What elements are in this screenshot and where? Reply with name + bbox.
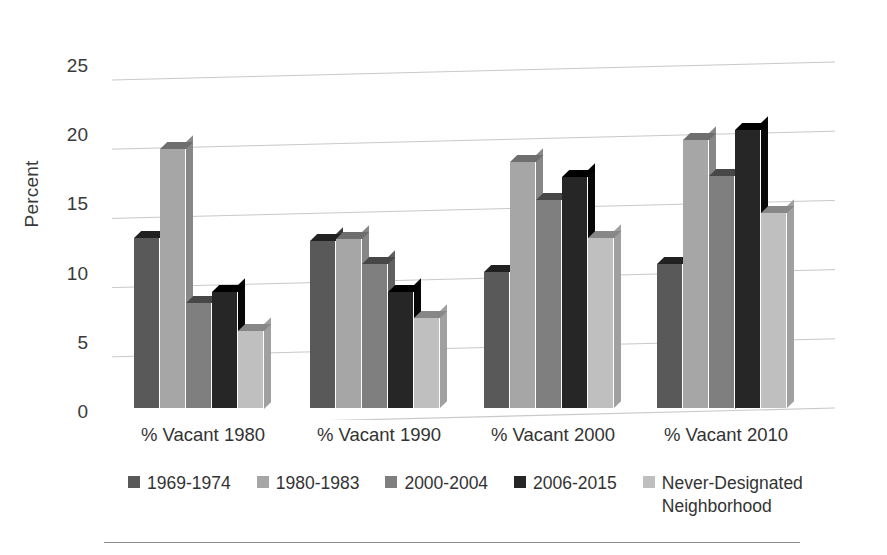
legend-label: 1980-1983 bbox=[276, 472, 360, 495]
bar bbox=[186, 303, 212, 408]
bar-group bbox=[310, 20, 460, 420]
chart-legend: 1969-19741980-19832000-20042006-2015Neve… bbox=[128, 472, 868, 518]
legend-swatch-icon bbox=[257, 476, 269, 488]
legend-swatch-icon bbox=[643, 476, 655, 488]
bar-front-face bbox=[562, 177, 588, 408]
bar-front-face bbox=[414, 318, 440, 408]
bar-side-face bbox=[440, 304, 447, 408]
bar-front-face bbox=[212, 292, 238, 408]
bar-front-face bbox=[761, 213, 787, 408]
legend-item[interactable]: 2006-2015 bbox=[514, 472, 617, 495]
bar-side-face bbox=[787, 199, 794, 408]
legend-item[interactable]: Never-Designated Neighborhood bbox=[643, 472, 803, 518]
y-axis-tick-5: 5 bbox=[34, 332, 88, 354]
bar bbox=[657, 264, 683, 408]
bar-front-face bbox=[310, 241, 336, 408]
y-axis-tick-labels: 2520151050 bbox=[32, 0, 88, 555]
y-axis-tick-20: 20 bbox=[34, 124, 88, 146]
legend-label: 2006-2015 bbox=[533, 472, 617, 495]
legend-label: 1969-1974 bbox=[147, 472, 231, 495]
bar-front-face bbox=[134, 238, 160, 408]
bar bbox=[761, 213, 787, 408]
bar-front-face bbox=[362, 264, 388, 408]
bar bbox=[414, 318, 440, 408]
bar bbox=[484, 272, 510, 408]
bar bbox=[683, 140, 709, 408]
legend-swatch-icon bbox=[385, 476, 397, 488]
bar bbox=[735, 130, 761, 408]
bar-front-face bbox=[709, 176, 735, 409]
bar-group bbox=[657, 20, 807, 420]
bar-front-face bbox=[683, 140, 709, 408]
x-axis-label-3: % Vacant 2000 bbox=[491, 424, 615, 446]
vacancy-bar-chart: Percent 2520151050 % Vacant 1980% Vacant… bbox=[0, 0, 887, 555]
bar bbox=[588, 238, 614, 408]
bar-groups bbox=[112, 20, 835, 420]
legend-item[interactable]: 2000-2004 bbox=[385, 472, 488, 495]
bar-side-face bbox=[264, 317, 271, 408]
x-axis-label-4: % Vacant 2010 bbox=[664, 424, 788, 446]
bar bbox=[562, 177, 588, 408]
x-axis-label-2: % Vacant 1990 bbox=[317, 424, 441, 446]
plot-area bbox=[112, 20, 835, 420]
bar-front-face bbox=[336, 239, 362, 408]
bar bbox=[212, 292, 238, 408]
footer-divider-rule bbox=[104, 542, 800, 543]
legend-item[interactable]: 1980-1983 bbox=[257, 472, 360, 495]
bar-side-face bbox=[614, 224, 621, 408]
bar-group bbox=[484, 20, 634, 420]
y-axis-tick-15: 15 bbox=[34, 193, 88, 215]
bar-front-face bbox=[160, 149, 186, 408]
bar-front-face bbox=[735, 130, 761, 408]
bar-front-face bbox=[388, 292, 414, 408]
legend-swatch-icon bbox=[128, 476, 140, 488]
bar bbox=[134, 238, 160, 408]
legend-item[interactable]: 1969-1974 bbox=[128, 472, 231, 495]
bar-front-face bbox=[536, 200, 562, 408]
bar-group bbox=[134, 20, 284, 420]
bar-front-face bbox=[484, 272, 510, 408]
bar bbox=[388, 292, 414, 408]
bar bbox=[510, 162, 536, 408]
legend-label: 2000-2004 bbox=[404, 472, 488, 495]
x-axis-category-labels: % Vacant 1980% Vacant 1990% Vacant 2000%… bbox=[112, 424, 835, 458]
bar-front-face bbox=[186, 303, 212, 408]
y-axis-tick-10: 10 bbox=[34, 263, 88, 285]
bar bbox=[238, 331, 264, 409]
legend-label: Never-Designated Neighborhood bbox=[662, 472, 803, 518]
bar bbox=[536, 200, 562, 408]
legend-swatch-icon bbox=[514, 476, 526, 488]
bar bbox=[310, 241, 336, 408]
bar-front-face bbox=[510, 162, 536, 408]
bar bbox=[336, 239, 362, 408]
bar-front-face bbox=[238, 331, 264, 409]
bar bbox=[362, 264, 388, 408]
y-axis-tick-0: 0 bbox=[34, 401, 88, 423]
bar bbox=[160, 149, 186, 408]
bar-front-face bbox=[657, 264, 683, 408]
x-axis-label-1: % Vacant 1980 bbox=[141, 424, 265, 446]
bar bbox=[709, 176, 735, 409]
y-axis-tick-25: 25 bbox=[34, 55, 88, 77]
bar-front-face bbox=[588, 238, 614, 408]
